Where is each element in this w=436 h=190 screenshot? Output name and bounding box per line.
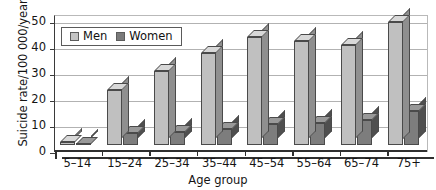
bar-group [242,16,289,152]
bar-side-face [325,109,332,138]
x-axis-tickmark [197,151,198,156]
y-axis-tick-label: 40 [22,42,46,54]
y-axis-tick-label: 10 [22,120,46,132]
suicide-rate-bar-chart: Suicide rate/100 000/year 01020304050 Me… [0,0,436,190]
bar-front-face [294,41,309,145]
bar-men-25-34 [154,71,169,145]
x-axis-tickmark [102,151,103,156]
bar-group [195,16,242,152]
x-axis-tickmark [292,151,293,156]
x-axis-tickmark [340,151,341,156]
bar-men-35-44 [201,53,216,145]
bar-men-75+ [388,22,403,146]
bar-front-face [247,37,262,145]
bar-side-face [262,23,269,138]
legend-item-women: Women [116,30,172,42]
y-axis-tick-label: 0 [22,146,46,158]
x-axis-title: Age group [0,173,436,187]
x-axis-tick-label: 35–44 [195,157,243,169]
bar-group [336,16,383,152]
x-axis-tick-label: 75+ [385,157,433,169]
bar-front-face [154,71,169,145]
x-axis-tick-label: 15–24 [101,157,149,169]
bar-front-face [201,53,216,145]
bar-group [382,16,429,152]
bar-front-face [107,90,122,145]
x-axis-tickmark [149,151,150,156]
bar-side-face [309,27,316,138]
bar-women-5-14 [76,144,91,145]
bar-side-face [216,39,223,138]
x-axis-tickmark [387,151,388,156]
y-axis-tick-label: 20 [22,94,46,106]
bar-men-5-14 [60,142,75,145]
bar-front-face [388,22,403,146]
x-axis-tick-label: 5–14 [53,157,101,169]
bar-men-65-74 [341,45,356,145]
x-axis-tick-label: 55–64 [290,157,338,169]
legend-label-women: Women [129,30,172,42]
bar-group [289,16,336,152]
bar-side-face [278,110,285,138]
bar-front-face [76,143,91,145]
legend: Men Women [61,27,182,46]
legend-swatch-men-icon [70,32,79,41]
legend-label-men: Men [83,30,107,42]
y-axis-tick-label: 30 [22,68,46,80]
bar-front-face [341,45,356,145]
bar-men-15-24 [107,90,122,145]
bar-men-45-54 [247,37,262,145]
bar-side-face [372,106,379,138]
bar-side-face [403,8,410,139]
legend-swatch-women-icon [116,32,125,41]
bar-side-face [356,31,363,138]
bar-men-55-64 [294,41,309,145]
x-axis-tick-label: 45–54 [243,157,291,169]
y-axis-tick-label: 50 [22,16,46,28]
x-axis-tick-labels: 5–1415–2425–3435–4445–5455–6465–7475+ [54,157,428,173]
x-axis-tick-label: 65–74 [337,157,385,169]
legend-item-men: Men [70,30,107,42]
x-axis-baseline [55,150,427,152]
x-axis-tickmark [245,151,246,156]
y-axis-tick-labels: 01020304050 [22,0,46,190]
bar-front-face [123,133,138,145]
bar-women-15-24 [123,133,138,145]
x-axis-tick-label: 25–34 [148,157,196,169]
bar-front-face [60,142,75,145]
